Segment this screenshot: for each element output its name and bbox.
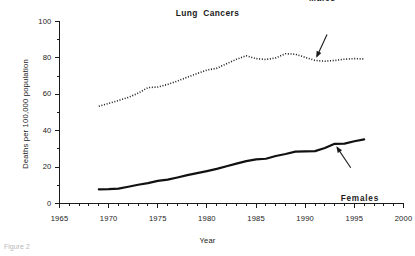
series-line-females [99,139,364,189]
x-axis-title: Year [0,236,415,245]
y-tick-label: 80 [12,53,52,62]
series-label-females: Females [341,194,379,203]
x-tick-label: 1975 [138,214,178,223]
annotation-arrowhead-females [336,146,342,153]
series-group [99,54,364,190]
x-tick-label: 1980 [187,214,227,223]
axes-group [55,22,404,209]
x-tick-label: 1985 [236,214,276,223]
chart-title: Lung Cancers [0,8,415,18]
y-axis-title: Deaths per 100,000 population [21,59,30,169]
series-label-males: Males [309,0,336,3]
x-tick-label: 1965 [40,214,80,223]
y-tick-label: 100 [12,17,52,26]
series-line-males [99,54,364,107]
y-tick-label: 60 [12,89,52,98]
y-tick-label: 0 [12,199,52,208]
annotation-arrowhead-males [316,51,321,58]
x-tick-label: 2000 [384,214,415,223]
x-tick-label: 1990 [285,214,325,223]
figure-caption: Figure 2 [4,243,30,250]
figure-root: Lung Cancers Deaths per 100,000 populati… [0,0,415,256]
y-tick-label: 20 [12,162,52,171]
annotation-group [316,34,350,167]
y-tick-label: 40 [12,126,52,135]
x-tick-label: 1995 [334,214,374,223]
x-tick-label: 1970 [89,214,129,223]
